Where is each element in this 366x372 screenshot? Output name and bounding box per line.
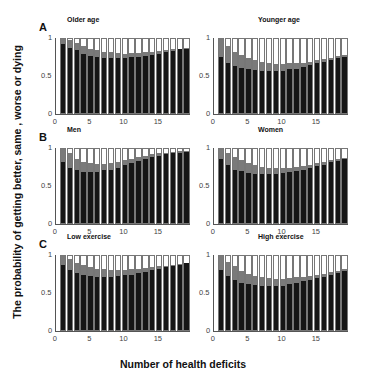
bar-segment-dark [184, 263, 188, 330]
stacked-bar [238, 255, 244, 331]
stacked-bar [286, 255, 292, 331]
bar-segment-dark [95, 277, 99, 330]
bar-segment-dark [178, 265, 182, 330]
bar-segment-dark [239, 283, 243, 330]
bar-segment-dark [233, 170, 237, 223]
bar-segment-dark [267, 286, 271, 330]
bar-segment-dark [102, 170, 106, 223]
stacked-bar [101, 148, 107, 224]
bar-segment-dark [226, 165, 230, 223]
panel-title: Men [67, 126, 81, 133]
bar-segment-dark [136, 161, 140, 223]
stacked-bar [74, 38, 80, 114]
bar-segment-dark [68, 48, 72, 113]
y-tick-label: 1 [206, 33, 210, 42]
bar-segment-dark [136, 273, 140, 330]
stacked-bar [266, 255, 272, 331]
bar-segment-dark [109, 170, 113, 223]
y-tick-label: 0.5 [199, 288, 209, 297]
bar-segment-dark [75, 50, 79, 113]
y-tick-label: 0 [48, 326, 52, 335]
bar-segment-dark [102, 58, 106, 114]
bar-segment-dark [246, 173, 250, 223]
y-tick-label: 1 [48, 250, 52, 259]
bar-segment-dark [81, 275, 85, 331]
bar-segment-dark [274, 286, 278, 330]
y-tick-label: 0 [48, 109, 52, 118]
stacked-bar [101, 255, 107, 331]
bar-segment-dark [219, 270, 223, 330]
bar-segment-dark [123, 165, 127, 223]
x-tick-label: 0 [211, 117, 215, 126]
bar-segment-dark [102, 277, 106, 330]
bar-segment-dark [301, 281, 305, 330]
bar-segment-dark [75, 170, 79, 223]
bar-segment-dark [164, 52, 168, 113]
stacked-bar [183, 255, 189, 331]
stacked-bar [266, 38, 272, 114]
bar-segment-dark [267, 71, 271, 113]
y-tick-label: 0.5 [41, 288, 51, 297]
stacked-bar [341, 38, 347, 114]
stacked-bar [135, 255, 141, 331]
bar-segment-dark [81, 54, 85, 113]
x-tick-label: 15 [312, 227, 320, 236]
bar-segment-dark [61, 265, 65, 330]
stacked-bar [74, 148, 80, 224]
bar-segment-dark [226, 276, 230, 330]
bar-segment-dark [150, 157, 154, 223]
bar-segment-dark [171, 51, 175, 113]
plot-area [55, 255, 190, 332]
bar-segment-dark [336, 273, 340, 330]
bar-segment-dark [246, 69, 250, 113]
x-tick-label: 10 [119, 117, 127, 126]
stacked-bar [341, 148, 347, 224]
bar-segment-dark [274, 174, 278, 223]
bar-segment-dark [322, 277, 326, 330]
y-axis-label: The probability of getting better, same … [11, 37, 23, 327]
stacked-bar [67, 255, 73, 331]
y-tick-label: 0 [206, 219, 210, 228]
bar-segment-dark [136, 57, 140, 113]
stacked-bar [135, 38, 141, 114]
stacked-bar [300, 255, 306, 331]
bar-segment-dark [281, 71, 285, 113]
stacked-bar [321, 38, 327, 114]
stacked-bar [67, 148, 73, 224]
stacked-bar [60, 148, 66, 224]
bar-segment-dark [329, 275, 333, 331]
panel-title: High exercise [258, 233, 304, 240]
bar-segment-dark [267, 174, 271, 223]
bar-segment-dark [226, 63, 230, 113]
plot-area [55, 148, 190, 225]
bar-segment-dark [260, 174, 264, 223]
stacked-bar [122, 148, 128, 224]
bar-segment-dark [109, 277, 113, 330]
y-tick-label: 1 [206, 143, 210, 152]
stacked-bar [300, 38, 306, 114]
stacked-bar [238, 148, 244, 224]
stacked-bar [60, 255, 66, 331]
stacked-bar [225, 255, 231, 331]
stacked-bar [335, 148, 341, 224]
panel-letter: C [39, 238, 47, 250]
x-tick-label: 10 [277, 117, 285, 126]
bar-segment-dark [116, 168, 120, 224]
x-tick-label: 15 [154, 334, 162, 343]
panel-title: Younger age [258, 16, 300, 23]
bar-segment-dark [233, 280, 237, 330]
stacked-bar [177, 38, 183, 114]
stacked-bar [128, 148, 134, 224]
stacked-bar [94, 148, 100, 224]
bar-segment-dark [281, 173, 285, 223]
bar-segment-dark [342, 271, 346, 330]
bar-segment-dark [287, 69, 291, 113]
bar-segment-dark [129, 163, 133, 223]
stacked-bar [307, 255, 313, 331]
bar-segment-dark [219, 57, 223, 113]
stacked-bar [183, 38, 189, 114]
stacked-bar [321, 255, 327, 331]
stacked-bar [80, 255, 86, 331]
y-tick-label: 1 [48, 33, 52, 42]
stacked-bar [328, 38, 334, 114]
